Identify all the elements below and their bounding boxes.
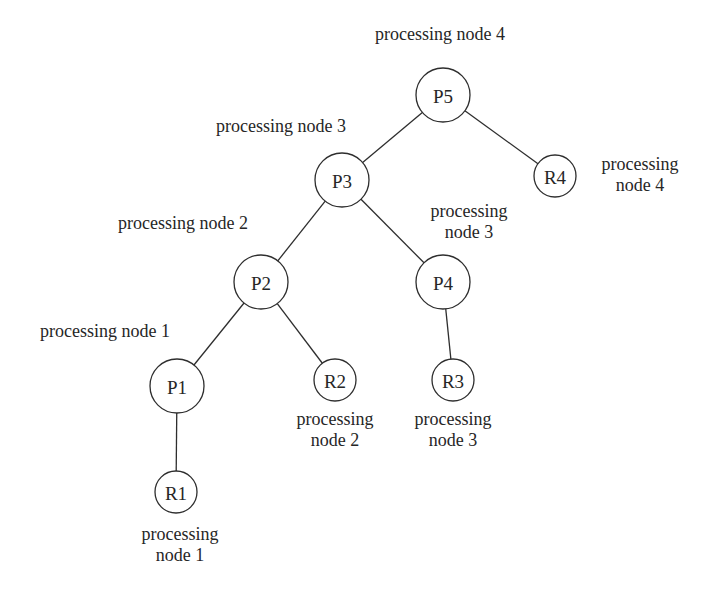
node-label: R2: [324, 371, 346, 392]
annotation-p3: processing node 3: [216, 116, 346, 136]
node-label: P5: [433, 86, 453, 107]
annotation-line: processing: [415, 409, 492, 429]
node-r4: R4: [534, 155, 576, 197]
node-label: P1: [167, 377, 187, 398]
edge-p5-p3: [363, 112, 423, 162]
node-label: P2: [251, 273, 271, 294]
node-label: R3: [442, 371, 464, 392]
annotation-line: node 4: [616, 175, 665, 195]
node-p1: P1: [150, 359, 204, 413]
node-r2: R2: [314, 359, 356, 401]
processing-tree-diagram: P5P3R4P2P4P1R2R3R1 processing node 4proc…: [0, 0, 714, 600]
annotation-line: processing: [142, 524, 219, 544]
edge-p5-r4: [465, 111, 538, 164]
node-label: R1: [165, 483, 187, 504]
annotation-line: processing node 2: [118, 213, 248, 233]
annotation-r2: processingnode 2: [297, 409, 374, 450]
annotation-line: processing node 1: [40, 321, 170, 341]
annotation-line: node 1: [156, 545, 205, 565]
node-p3: P3: [315, 153, 369, 207]
node-r3: R3: [432, 359, 474, 401]
annotation-p1: processing node 1: [40, 321, 170, 341]
annotation-r1: processingnode 1: [142, 524, 219, 565]
annotation-line: processing: [431, 201, 508, 221]
annotation-line: processing node 3: [216, 116, 346, 136]
annotation-line: processing: [297, 409, 374, 429]
edge-p3-p2: [278, 201, 325, 261]
annotation-line: node 3: [445, 222, 494, 242]
tree-nodes: P5P3R4P2P4P1R2R3R1: [150, 68, 576, 513]
annotation-r3: processingnode 3: [415, 409, 492, 450]
annotation-line: node 3: [429, 430, 478, 450]
edge-p4-r3: [446, 309, 451, 359]
edge-p1-r1: [176, 413, 177, 471]
node-label: R4: [544, 167, 567, 188]
edge-p3-p4: [361, 199, 424, 263]
annotation-line: processing: [602, 154, 679, 174]
node-annotations: processing node 4processing node 3proces…: [40, 24, 678, 565]
node-p4: P4: [416, 255, 470, 309]
edge-p2-r2: [277, 304, 322, 364]
annotation-p4: processingnode 3: [431, 201, 508, 242]
annotation-line: node 2: [311, 430, 360, 450]
annotation-line: processing node 4: [375, 24, 505, 44]
node-p2: P2: [234, 255, 288, 309]
edge-p2-p1: [194, 303, 244, 365]
node-p5: P5: [416, 68, 470, 122]
node-label: P4: [433, 273, 454, 294]
node-label: P3: [332, 171, 352, 192]
annotation-p5: processing node 4: [375, 24, 505, 44]
annotation-r4: processingnode 4: [602, 154, 679, 195]
node-r1: R1: [155, 471, 197, 513]
annotation-p2: processing node 2: [118, 213, 248, 233]
